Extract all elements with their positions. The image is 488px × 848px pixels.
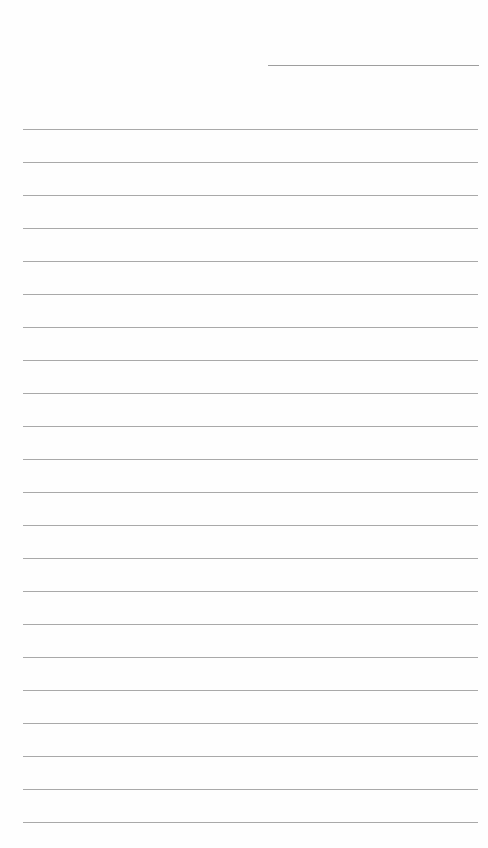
ruled-line <box>23 624 478 625</box>
ruled-line <box>23 525 478 526</box>
ruled-line <box>23 162 478 163</box>
ruled-line <box>23 426 478 427</box>
ruled-line <box>23 657 478 658</box>
ruled-line <box>23 393 478 394</box>
header-signature-line <box>268 65 479 66</box>
ruled-line <box>23 459 478 460</box>
ruled-line <box>23 756 478 757</box>
ruled-line <box>23 492 478 493</box>
ruled-line <box>23 723 478 724</box>
ruled-line <box>23 789 478 790</box>
ruled-line <box>23 228 478 229</box>
ruled-line <box>23 261 478 262</box>
ruled-line <box>23 690 478 691</box>
ruled-line <box>23 360 478 361</box>
ruled-line <box>23 327 478 328</box>
ruled-line <box>23 294 478 295</box>
ruled-line <box>23 558 478 559</box>
lined-paper-page <box>0 0 488 848</box>
ruled-line <box>23 195 478 196</box>
ruled-line <box>23 591 478 592</box>
ruled-line <box>23 129 478 130</box>
ruled-line <box>23 822 478 823</box>
